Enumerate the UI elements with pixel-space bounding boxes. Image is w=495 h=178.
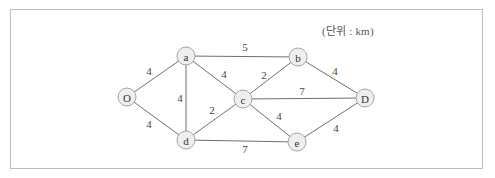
edge-b-c (243, 57, 298, 99)
node-b: b (289, 48, 307, 66)
edge-weight-e-D: 4 (333, 122, 339, 134)
edge-weight-c-d: 2 (209, 104, 215, 116)
edge-weight-c-e: 4 (276, 110, 282, 122)
node-c: c (234, 90, 252, 108)
node-label-a: a (184, 51, 189, 63)
node-label-D: D (361, 93, 369, 105)
node-a: a (177, 47, 195, 65)
edge-weight-a-c: 4 (221, 68, 227, 80)
edge-d-e (186, 140, 297, 142)
node-e: e (288, 133, 306, 151)
edge-weight-a-b: 5 (242, 41, 248, 53)
edge-weight-c-D: 7 (299, 85, 305, 97)
edge-weight-b-D: 4 (332, 65, 338, 77)
node-label-d: d (183, 135, 189, 147)
edge-e-D (297, 98, 365, 142)
nodes-layer: OabcDde (118, 47, 374, 151)
node-label-b: b (295, 52, 301, 64)
edge-weight-d-e: 7 (242, 143, 248, 155)
node-label-c: c (241, 94, 246, 106)
node-D: D (356, 89, 374, 107)
edge-weight-O-d: 4 (146, 118, 152, 130)
node-O: O (118, 88, 136, 106)
edge-a-c (186, 56, 243, 99)
node-label-O: O (123, 92, 131, 104)
edge-weight-a-d: 4 (177, 92, 183, 104)
node-d: d (177, 131, 195, 149)
node-label-e: e (295, 137, 300, 149)
edge-c-e (243, 99, 297, 142)
edge-b-D (298, 57, 365, 98)
edge-weight-O-a: 4 (146, 65, 152, 77)
network-graph: 445442472474 OabcDde (0, 0, 495, 178)
edge-a-b (186, 56, 298, 57)
edge-c-D (243, 98, 365, 99)
edge-O-a (127, 56, 186, 97)
edge-weight-b-c: 2 (261, 69, 267, 81)
